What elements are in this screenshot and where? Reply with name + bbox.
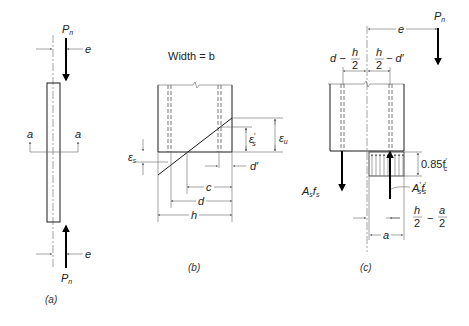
column-member <box>47 83 60 222</box>
panel-c-caption: (c) <box>360 262 372 273</box>
a-over-2-num: a <box>439 204 445 216</box>
reinforced-concrete-column-diagram: Pn e a a Pn e (a) Width = b <box>0 0 469 326</box>
eps-s-label: εs <box>128 151 137 164</box>
panel-a-caption: (a) <box>45 294 57 305</box>
eccentricity-label-top: e <box>85 43 91 55</box>
e-label: e <box>398 23 404 35</box>
load-label-top: Pn <box>62 23 73 36</box>
d-minus-label: d − <box>330 52 346 64</box>
tension-force-label: Asfs <box>301 185 320 198</box>
h2-denominator: 2 <box>376 59 382 71</box>
compression-force-leader <box>391 187 410 189</box>
h-over-2-num: h <box>414 204 420 216</box>
panel-b-caption: (b) <box>188 262 200 273</box>
load-label-bottom: Pn <box>61 272 72 285</box>
section-break-line-c <box>328 81 404 87</box>
two-denominator: 2 <box>352 59 358 71</box>
h-label: h <box>191 209 197 221</box>
minus-sign: − <box>427 212 433 224</box>
a-label: a <box>383 229 389 241</box>
h-over-2-den: 2 <box>414 217 420 229</box>
section-label-right: a <box>75 128 81 140</box>
stress-label: 0.85f′c <box>421 157 448 172</box>
compression-stress-block <box>369 152 404 176</box>
d-prime-label: d′ <box>250 160 259 172</box>
panel-b-strain-distribution: Width = b εu ε′s εs <box>128 50 288 273</box>
a-over-2-den: 2 <box>439 217 445 229</box>
compression-steel-force-label: A′sf′s <box>411 181 427 195</box>
c-label: c <box>206 181 212 193</box>
width-label: Width = b <box>168 50 215 62</box>
section-label-left: a <box>27 128 33 140</box>
panel-a-column-elevation: Pn e a a Pn e (a) <box>27 23 91 305</box>
h-numerator: h <box>352 46 358 58</box>
eps-s-prime-label: ε′s <box>249 132 256 147</box>
eps-u-label: εu <box>279 132 288 145</box>
d-label: d <box>198 195 205 207</box>
eccentricity-label-bottom: e <box>85 248 91 260</box>
h2-numerator: h <box>376 46 382 58</box>
minus-d-prime-label: − d′ <box>386 52 405 64</box>
load-label: Pn <box>434 10 445 23</box>
panel-c-force-equilibrium: Pn e d − h 2 h 2 − d′ <box>301 10 448 273</box>
